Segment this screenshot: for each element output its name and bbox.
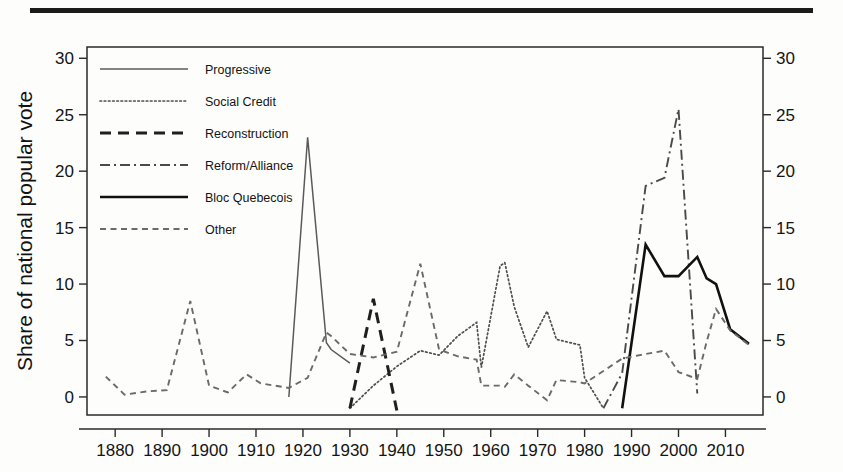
legend-label: Bloc Quebecois [205,191,293,205]
legend-label: Other [205,223,236,237]
chart-legend: ProgressiveSocial CreditReconstructionRe… [100,63,293,237]
legend-label: Progressive [205,63,271,77]
y-tick-label: 20 [55,162,74,181]
y-tick-label-right: 20 [776,162,795,181]
x-axis: 1880189019001910192019301940195019601970… [79,429,766,460]
y-axis-right: 051015202530 [763,49,795,407]
x-tick-label: 2000 [660,441,698,460]
x-tick-label: 1980 [566,441,604,460]
chart-figure: Third party share of the popular vote in… [0,0,843,472]
series-line-progressive [289,137,350,397]
y-tick-label-right: 25 [776,106,795,125]
x-tick-label: 1920 [284,441,322,460]
x-tick-label: 1950 [425,441,463,460]
x-tick-label: 1940 [378,441,416,460]
y-tick-label-right: 10 [776,275,795,294]
plot-frame [87,47,763,415]
y-tick-label-right: 5 [776,331,785,350]
y-tick-label-right: 15 [776,219,795,238]
y-tick-label: 5 [65,331,74,350]
x-tick-label: 1970 [519,441,557,460]
y-tick-label-right: 0 [776,388,785,407]
y-tick-label: 25 [55,106,74,125]
series-line-reconstruction [350,299,397,411]
y-tick-label: 30 [55,49,74,68]
series-line-social-credit [350,263,604,409]
legend-label: Social Credit [205,95,276,109]
x-tick-label: 2010 [707,441,745,460]
series-line-bloc-quebecois [622,245,749,409]
series-line-reform-alliance [603,109,697,408]
x-tick-label: 1990 [613,441,651,460]
legend-label: Reconstruction [205,127,288,141]
x-tick-label: 1890 [143,441,181,460]
y-tick-label-right: 30 [776,49,795,68]
y-tick-label: 10 [55,275,74,294]
series-line-other [106,264,749,401]
x-tick-label: 1910 [237,441,275,460]
chart-plot-area: 051015202530 051015202530 18801890190019… [0,0,843,472]
x-tick-label: 1880 [96,441,134,460]
y-tick-label: 15 [55,219,74,238]
data-series-group [106,109,749,410]
y-axis-title: Share of national popular vote [13,91,36,371]
x-tick-label: 1960 [472,441,510,460]
x-tick-label: 1900 [190,441,228,460]
legend-label: Reform/Alliance [205,159,293,173]
x-tick-label: 1930 [331,441,369,460]
y-tick-label: 0 [65,388,74,407]
y-axis-left: 051015202530 [55,49,87,407]
